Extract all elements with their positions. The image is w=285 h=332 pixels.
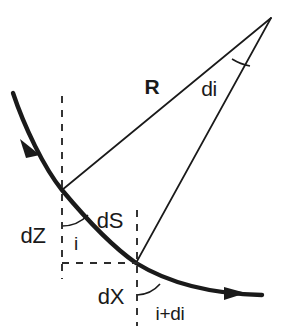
radius-line-upper: [62, 18, 271, 190]
incidence-plus-angle-arc: [137, 284, 160, 295]
arrowhead-end-icon: [224, 287, 246, 300]
radius-line-lower: [136, 18, 271, 263]
label-angle-increment: di: [201, 78, 217, 99]
label-incidence-angle: i: [74, 234, 78, 253]
label-depth-increment: dZ: [20, 225, 45, 247]
label-arc-length: dS: [97, 210, 123, 232]
ray-path-curve: [13, 93, 262, 295]
label-horizontal-increment: dX: [98, 286, 124, 308]
diagram-canvas: [0, 0, 285, 332]
ray-geometry-diagram: R di dZ dS dX i i+di: [0, 0, 285, 332]
label-radius: R: [145, 76, 160, 97]
label-incidence-angle-plus: i+di: [156, 304, 185, 323]
